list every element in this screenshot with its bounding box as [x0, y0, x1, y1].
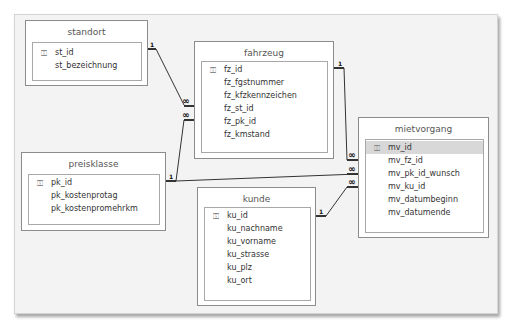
field-row[interactable]: ⚿ pk_id [29, 176, 159, 189]
rel-preisklasse-fahrzeug[interactable] [176, 120, 184, 181]
field-row[interactable]: pk_kostenpromehrkm [29, 202, 159, 215]
rel-preisklasse-mietvorgang[interactable] [176, 174, 358, 181]
field-row-selected[interactable]: ⚿ mv_id [366, 141, 483, 154]
field-row[interactable]: fz_st_id [202, 102, 327, 115]
field-list: ⚿ pk_id pk_kostenprotag pk_kostenpromehr… [28, 174, 160, 225]
field-row[interactable]: fz_kmstand [202, 128, 327, 141]
field-name: ku_plz [227, 263, 252, 272]
field-name: st_id [55, 48, 74, 57]
one-label: 1 [150, 42, 154, 48]
many-label: ∞ [182, 112, 189, 119]
field-name: st_bezeichnung [55, 61, 117, 70]
field-row[interactable]: pk_kostenprotag [29, 189, 159, 202]
table-title: mietvorgang [359, 124, 488, 134]
field-name: fz_st_id [224, 104, 254, 113]
field-name: ku_id [227, 211, 248, 220]
table-title: fahrzeug [195, 48, 333, 58]
field-list: ⚿ ku_id ku_nachname ku_vorname ku_strass… [204, 207, 311, 301]
field-row[interactable]: mv_ku_id [366, 180, 483, 193]
field-name: fz_pk_id [224, 117, 256, 126]
table-mietvorgang[interactable]: mietvorgang ⚿ mv_id mv_fz_id mv_pk_id_wu… [358, 117, 489, 238]
field-name: mv_fz_id [388, 156, 423, 165]
table-fahrzeug[interactable]: fahrzeug ⚿ fz_id fz_fgstnummer fz_kfzken… [194, 41, 334, 159]
field-row[interactable]: ku_plz [205, 261, 310, 274]
field-row[interactable]: fz_fgstnummer [202, 76, 327, 89]
field-name: mv_pk_id_wunsch [388, 169, 460, 178]
field-row[interactable]: mv_fz_id [366, 154, 483, 167]
field-name: fz_kfzkennzeichen [224, 91, 297, 100]
field-row[interactable]: mv_pk_id_wunsch [366, 167, 483, 180]
field-row[interactable]: ku_ort [205, 274, 310, 287]
field-name: mv_ku_id [388, 182, 425, 191]
one-label: 1 [319, 209, 323, 215]
field-name: fz_kmstand [224, 130, 270, 139]
field-row[interactable]: fz_kfzkennzeichen [202, 89, 327, 102]
field-name: fz_id [224, 65, 242, 74]
table-preisklasse[interactable]: preisklasse ⚿ pk_id pk_kostenprotag pk_k… [21, 152, 166, 231]
field-row[interactable]: ⚿ st_id [33, 46, 141, 59]
field-name: ku_ort [227, 276, 252, 285]
field-list: ⚿ fz_id fz_fgstnummer fz_kfzkennzeichen … [201, 61, 328, 153]
field-name: pk_id [51, 178, 72, 187]
many-label: ∞ [348, 166, 355, 173]
field-row[interactable]: ku_vorname [205, 235, 310, 248]
table-title: standort [26, 27, 147, 37]
field-name: ku_vorname [227, 237, 276, 246]
field-row[interactable]: ⚿ ku_id [205, 209, 310, 222]
field-name: mv_datumbeginn [388, 195, 458, 204]
rel-fahrzeug-mietvorgang[interactable] [344, 68, 347, 160]
field-name: fz_fgstnummer [224, 78, 284, 87]
field-name: pk_kostenprotag [51, 191, 117, 200]
field-name: pk_kostenpromehrkm [51, 204, 138, 213]
table-standort[interactable]: standort ⚿ st_id st_bezeichnung [25, 20, 148, 86]
field-name: ku_nachname [227, 224, 283, 233]
rel-kunde-mietvorgang[interactable] [326, 187, 347, 216]
field-list: ⚿ st_id st_bezeichnung [32, 42, 142, 81]
field-row[interactable]: fz_pk_id [202, 115, 327, 128]
table-title: preisklasse [22, 159, 165, 169]
field-row[interactable]: mv_datumende [366, 206, 483, 219]
field-row[interactable]: mv_datumbeginn [366, 193, 483, 206]
table-title: kunde [198, 194, 315, 204]
field-name: mv_datumende [388, 208, 451, 217]
many-label: ∞ [348, 179, 355, 186]
field-name: mv_id [388, 143, 412, 152]
field-row[interactable]: ku_strasse [205, 248, 310, 261]
field-row[interactable]: ⚿ fz_id [202, 63, 327, 76]
table-kunde[interactable]: kunde ⚿ ku_id ku_nachname ku_vorname ku_… [197, 187, 316, 306]
field-row[interactable]: ku_nachname [205, 222, 310, 235]
rel-standort-fahrzeug[interactable] [156, 49, 184, 105]
many-label: ∞ [182, 98, 189, 105]
many-label: ∞ [348, 152, 355, 159]
one-label: 1 [338, 61, 342, 67]
field-row[interactable]: st_bezeichnung [33, 59, 141, 72]
field-list: ⚿ mv_id mv_fz_id mv_pk_id_wunsch mv_ku_i… [365, 139, 484, 233]
one-label: 1 [169, 174, 173, 180]
field-name: ku_strasse [227, 250, 269, 259]
